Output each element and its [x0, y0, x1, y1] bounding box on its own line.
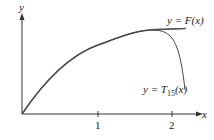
label-F: y = F(x) [167, 15, 204, 26]
x-axis-label: x [202, 109, 207, 120]
label-F-prefix: y = [167, 14, 185, 26]
curve-T15 [22, 30, 185, 114]
label-F-fn: F(x) [185, 14, 204, 26]
label-T15-sub: 15 [167, 89, 175, 98]
y-axis-arrow-icon [20, 13, 25, 20]
curve-F [22, 29, 186, 115]
x-tick-label-2: 2 [169, 120, 175, 131]
label-T15: y = T15(x) [143, 84, 187, 98]
x-tick-label-1: 1 [95, 120, 101, 131]
y-axis-label: y [19, 2, 24, 13]
label-T15-post: (x) [175, 83, 187, 95]
label-T15-prefix: y = T [143, 83, 167, 95]
